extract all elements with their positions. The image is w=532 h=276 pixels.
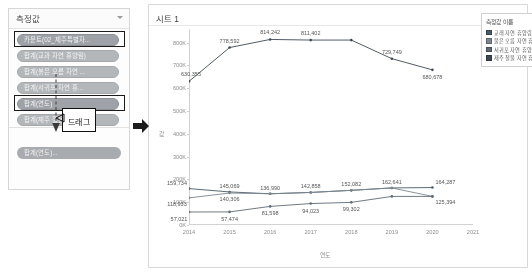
line-series [189,39,432,81]
legend-item[interactable]: 서귀포 자연 휴양림 [486,46,532,54]
data-point-label: 118,933 [167,201,186,207]
chevron-down-icon[interactable] [117,16,123,19]
y-axis-tick-label: 500K [173,108,186,114]
y-axis-tick-mark [187,202,190,203]
x-axis-tick-label: 2016 [264,229,276,235]
data-point-marker[interactable] [350,201,353,204]
data-point-marker[interactable] [189,211,190,214]
data-point-label: 81,598 [262,210,279,216]
y-axis-tick-label: 600K [173,85,186,91]
data-point-marker[interactable] [228,192,231,195]
y-axis-tick-label: 0K [179,222,186,228]
data-point-marker[interactable] [309,191,312,194]
data-point-label: 94,023 [302,208,319,214]
data-point-marker[interactable] [431,69,434,72]
y-axis-tick-mark [187,225,190,226]
legend-item[interactable]: 붉은 오름 자연 휴양림 [486,37,532,45]
drag-annotation-label: 드래그 [68,118,90,127]
y-axis-tick-mark [187,88,190,89]
legend-color-swatch [486,38,492,44]
data-point-label: 57,021 [171,216,188,222]
data-point-label: 811,402 [301,30,320,36]
y-axis-tick-mark [187,111,190,112]
data-point-marker[interactable] [309,39,312,42]
data-point-marker[interactable] [350,189,353,192]
screenshot-root: 측정값 카운트(02_제주특별자... 합계(교과 자연 휴양림) 합계(붉은 … [0,0,532,276]
data-point-marker[interactable] [391,195,394,198]
list-item[interactable]: 카운트(02_제주특별자... [15,33,123,47]
plot-area: 0K100K200K300K400K500K600K700K800K 20142… [189,29,473,225]
data-point-marker[interactable] [228,211,231,214]
callout-pointer-icon [56,113,66,123]
data-point-label: 159,734 [167,180,187,186]
selection-highlight-box [14,31,125,47]
x-axis-tick-label: 2014 [183,229,195,235]
page-title: 시트 1 [156,12,179,24]
data-point-marker[interactable] [431,195,434,198]
data-point-marker[interactable] [350,39,353,42]
data-point-label: 136,990 [260,185,280,191]
data-point-marker[interactable] [189,187,190,190]
data-point-label: 680,678 [422,74,442,80]
data-point-label: 99,302 [343,206,360,212]
y-axis-tick-label: 400K [173,131,186,137]
data-point-label: 164,287 [435,179,455,185]
y-axis-tick-label: 300K [173,154,186,160]
divider [149,25,527,26]
x-axis-tick-label: 2021 [467,229,479,235]
data-point-label: 57,474 [221,216,238,222]
legend-item[interactable]: 제주 절물 자연 휴양림 [486,54,532,62]
data-point-label: 729,749 [382,49,402,55]
data-point-marker[interactable] [228,46,231,49]
data-point-label: 152,082 [341,181,361,187]
legend-color-swatch [486,30,492,36]
list-item[interactable]: 합계(교과 자연 휴양림) [15,49,123,63]
measure-pill-label[interactable]: 합계(교과 자연 휴양림) [17,50,119,62]
y-axis-title: 값 [159,129,164,138]
arrow-right-icon [133,118,149,134]
panel-header: 측정값 [9,9,129,29]
x-axis-tick-label: 2017 [304,229,316,235]
legend-title: 측정값 이름 [486,17,532,26]
x-axis-title: 연도 [320,250,330,259]
data-point-label: 142,858 [301,183,321,189]
legend-item-label: 서귀포 자연 휴양림 [494,46,532,53]
data-point-label: 162,641 [382,179,402,185]
legend: 측정값 이름 교래 자연 휴양림 붉은 오름 자연 휴양림 서귀포 자연 휴양림… [481,13,532,67]
data-point-marker[interactable] [189,197,190,200]
x-axis-tick-label: 2020 [426,229,438,235]
data-point-label: 145,069 [220,183,240,189]
legend-item-label: 제주 절물 자연 휴양림 [494,54,532,61]
data-point-label: 630,355 [181,71,201,77]
data-point-marker[interactable] [269,38,272,41]
legend-item-label: 붉은 오름 자연 휴양림 [494,37,532,44]
y-axis-tick-mark [187,134,190,135]
data-point-label: 125,394 [435,199,455,205]
y-axis-tick-mark [187,157,190,158]
data-point-marker[interactable] [391,187,394,190]
legend-item[interactable]: 교래 자연 휴양림 [486,29,532,37]
data-point-label: 140,306 [220,196,240,202]
x-axis-tick-label: 2018 [345,229,357,235]
data-point-label: 778,592 [220,38,240,44]
data-point-label: 814,242 [260,29,280,35]
data-point-marker[interactable] [269,205,272,208]
panel-title: 측정값 [16,12,123,24]
drag-annotation-callout: 드래그 [62,108,96,132]
legend-color-swatch [486,47,492,53]
legend-color-swatch [486,55,492,61]
x-axis-tick-label: 2015 [223,229,235,235]
y-axis-tick-mark [187,65,190,66]
data-point-marker[interactable] [431,186,434,189]
worksheet-panel: 시트 1 값 연도 0K100K200K300K400K500K600K700K… [148,4,528,268]
legend-item-label: 교래 자연 휴양림 [494,29,532,36]
drop-target-pill[interactable]: 합계(연도)... [17,147,121,159]
y-axis-tick-label: 700K [173,62,186,68]
data-point-marker[interactable] [269,192,272,195]
y-axis-tick-label: 800K [173,40,186,46]
data-point-marker[interactable] [391,57,394,60]
x-axis-tick-label: 2019 [386,229,398,235]
data-point-marker[interactable] [309,202,312,205]
y-axis-tick-mark [187,43,190,44]
